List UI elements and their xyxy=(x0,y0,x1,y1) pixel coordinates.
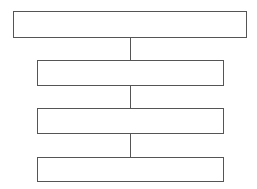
third-box xyxy=(37,108,224,134)
connector-3-4 xyxy=(130,134,131,157)
second-box xyxy=(37,60,224,86)
top-box xyxy=(13,11,247,38)
connector-1-2 xyxy=(130,38,131,60)
fourth-box xyxy=(37,157,224,182)
connector-2-3 xyxy=(130,86,131,108)
